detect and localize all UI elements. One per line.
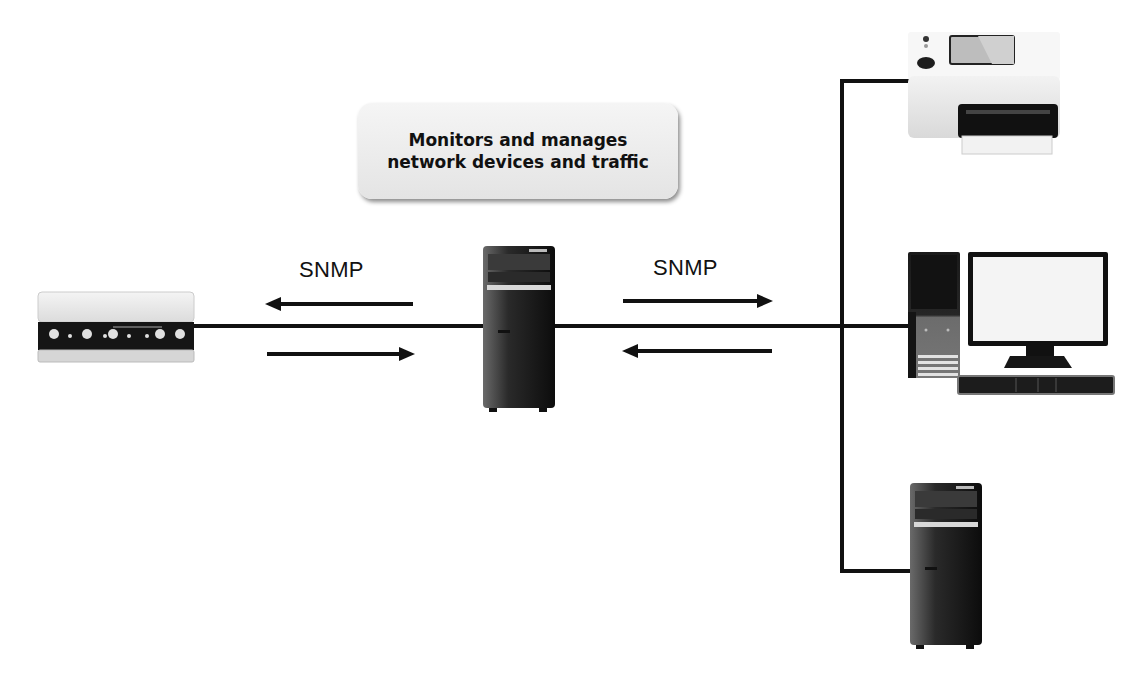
- arrow-left-icon: [622, 344, 774, 358]
- snmp-label-left: SNMP: [299, 257, 364, 283]
- arrow-right-icon: [621, 294, 773, 308]
- workstation-link-line: [840, 324, 908, 328]
- manager-description-callout: Monitors and manages network devices and…: [358, 103, 678, 199]
- network-appliance-icon: [37, 292, 197, 364]
- arrow-left-icon: [265, 297, 415, 311]
- printer-link-line: [840, 79, 910, 83]
- callout-line-1: Monitors and manages: [409, 129, 628, 151]
- server-link-line: [840, 569, 910, 573]
- callout-line-2: network devices and traffic: [387, 151, 649, 173]
- snmp-label-right: SNMP: [653, 255, 718, 281]
- workstation-icon: [906, 250, 1116, 400]
- manager-server-icon: [481, 244, 557, 414]
- printer-icon: [908, 30, 1068, 160]
- arrow-right-icon: [265, 347, 415, 361]
- server-tower-icon: [908, 481, 984, 651]
